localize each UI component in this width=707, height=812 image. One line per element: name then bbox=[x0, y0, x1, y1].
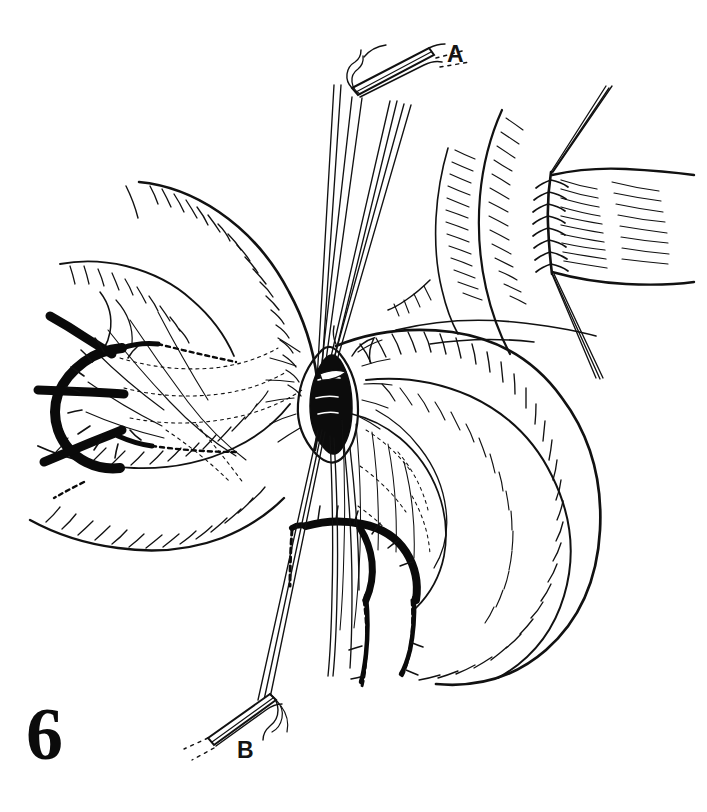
label-b: B bbox=[237, 739, 254, 762]
label-a: A bbox=[447, 43, 464, 66]
figure-number: 6 bbox=[26, 697, 63, 771]
figure-background bbox=[0, 0, 707, 812]
surgical-illustration-canvas bbox=[0, 0, 707, 812]
